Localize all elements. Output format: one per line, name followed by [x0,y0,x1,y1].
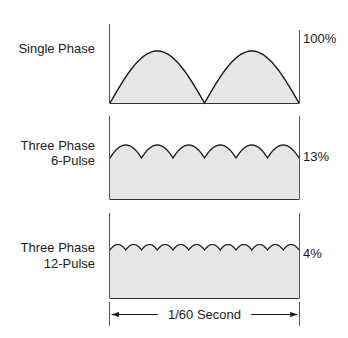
ripple-single-phase: 100% [303,31,336,46]
label-12-pulse: 12-Pulse [0,256,95,271]
panel-three-phase-12-pulse [110,213,300,299]
ripple-12-pulse: 4% [303,246,322,261]
rectifier-ripple-diagram: Single Phase Three Phase 6-Pulse Three P… [0,0,348,338]
time-span-label: 1/60 Second [158,307,251,322]
panel-three-phase-6-pulse [110,116,300,200]
label-three-phase-6: Three Phase [0,138,95,153]
single-phase-fill [110,51,299,103]
panel-single-phase [110,24,300,104]
time-span-label-wrap: 1/60 Second [110,307,299,322]
label-three-phase-12: Three Phase [0,240,95,255]
ripple-6-pulse: 13% [303,149,329,164]
label-single-phase: Single Phase [0,41,95,56]
twelve-pulse-fill [110,245,299,299]
label-6-pulse: 6-Pulse [0,153,95,168]
